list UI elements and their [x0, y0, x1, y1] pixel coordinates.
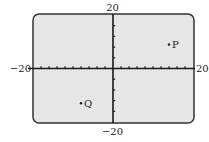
calculator-graph: PQ 20 −20 −20 20 [0, 0, 209, 142]
ymin-label: −20 [102, 126, 123, 137]
point-marker [80, 102, 82, 104]
xmin-label: −20 [10, 63, 31, 74]
ymax-label: 20 [106, 2, 119, 13]
xmax-label: 20 [196, 63, 209, 74]
point-marker [168, 43, 170, 45]
point-label: P [172, 39, 179, 50]
point-label: Q [84, 98, 92, 109]
